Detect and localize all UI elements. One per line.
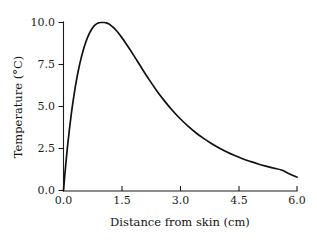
x-tick-label-0: 0.0: [55, 194, 73, 207]
chart-figure: 10.0 7.5 5.0 2.5 0.0 0.0 1.5 3.0 4.5 6.0…: [0, 0, 317, 241]
temperature-curve: [64, 22, 298, 190]
y-tick-label-5: 5.0: [38, 100, 56, 113]
x-tick-label-1-5: 1.5: [113, 194, 131, 207]
y-tick-label-10: 10.0: [31, 16, 56, 29]
x-tick-label-6-0: 6.0: [288, 194, 306, 207]
x-axis-title: Distance from skin (cm): [110, 215, 250, 229]
x-tick-label-4-5: 4.5: [230, 194, 248, 207]
y-tick-label-7-5: 7.5: [38, 58, 56, 71]
y-tick-label-2-5: 2.5: [38, 142, 56, 155]
temperature-distance-line-chart: 10.0 7.5 5.0 2.5 0.0 0.0 1.5 3.0 4.5 6.0…: [0, 0, 317, 241]
y-axis-title: Temperature (°C): [11, 56, 25, 159]
x-tick-label-3-0: 3.0: [172, 194, 190, 207]
y-tick-label-0: 0.0: [38, 184, 56, 197]
